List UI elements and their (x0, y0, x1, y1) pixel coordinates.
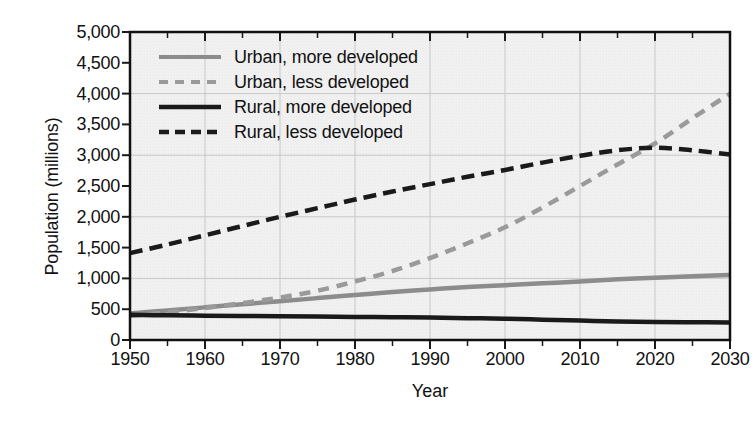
legend-item-rural-more-developed: Rural, more developed (158, 94, 418, 119)
legend-label-rural-less-developed: Rural, less developed (234, 123, 403, 141)
legend-item-rural-less-developed: Rural, less developed (158, 119, 418, 144)
legend-swatch-urban-less-developed (158, 75, 222, 89)
legend-swatch-rural-more-developed (158, 100, 222, 114)
chart-legend: Urban, more developed Urban, less develo… (158, 44, 418, 144)
legend-item-urban-more-developed: Urban, more developed (158, 44, 418, 69)
legend-label-urban-more-developed: Urban, more developed (234, 48, 418, 66)
legend-swatch-urban-more-developed (158, 50, 222, 64)
population-line-chart: Population (millions) 05001,0001,5002,00… (0, 0, 756, 422)
legend-label-rural-more-developed: Rural, more developed (234, 98, 412, 116)
legend-label-urban-less-developed: Urban, less developed (234, 73, 409, 91)
legend-swatch-rural-less-developed (158, 125, 222, 139)
legend-item-urban-less-developed: Urban, less developed (158, 69, 418, 94)
